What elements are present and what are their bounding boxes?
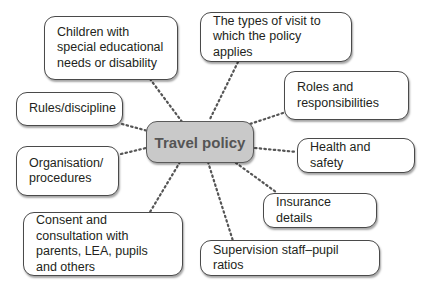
- node-label: Consent and consultation with parents, L…: [36, 213, 170, 275]
- node-label: The types of visit to which the policy a…: [213, 14, 339, 61]
- node-insurance-details: Insurance details: [263, 193, 377, 228]
- node-supervision-ratios: Supervision staff–pupil ratios: [200, 240, 380, 276]
- node-health-safety: Health and safety: [297, 138, 415, 173]
- central-node-travel-policy: Travel policy: [146, 121, 254, 163]
- node-types-of-visit: The types of visit to which the policy a…: [200, 12, 352, 62]
- node-label: Supervision staff–pupil ratios: [213, 243, 367, 274]
- node-consent-consultation: Consent and consultation with parents, L…: [23, 212, 183, 276]
- node-label: Roles and responsibilities: [297, 80, 396, 111]
- node-label: Insurance details: [276, 195, 364, 226]
- node-roles-responsibilities: Roles and responsibilities: [284, 71, 409, 120]
- node-label: Health and safety: [310, 140, 402, 171]
- node-label: Children with special educational needs …: [57, 25, 165, 72]
- node-label: Rules/discipline: [29, 101, 116, 117]
- node-organisation-procedures: Organisation/ procedures: [16, 146, 119, 196]
- node-rules-discipline: Rules/discipline: [16, 92, 123, 126]
- node-children-sen: Children with special educational needs …: [44, 16, 178, 80]
- node-label: Organisation/ procedures: [29, 156, 106, 187]
- central-node-label: Travel policy: [155, 134, 246, 151]
